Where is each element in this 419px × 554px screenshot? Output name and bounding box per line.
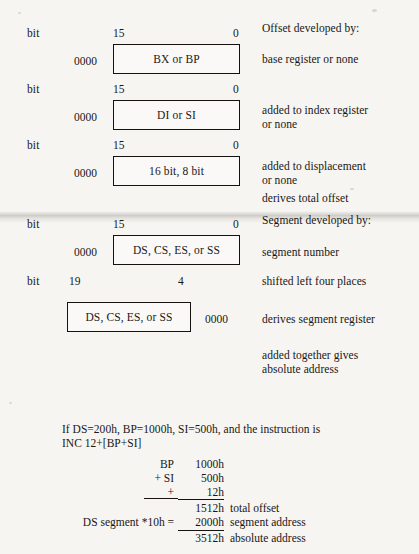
- description-row-5: derives segment register: [262, 313, 375, 327]
- bit-label-row-4: bit: [27, 218, 39, 230]
- address-calculation-diagram: bit 15 0 0000 BX or BP Offset developed …: [0, 0, 419, 554]
- calc-row: BP 1000h: [0, 458, 419, 472]
- bit-label-row-2: bit: [27, 83, 39, 95]
- calc-value: 1000h: [178, 458, 224, 472]
- register-box-label-row-3: 16 bit, 8 bit: [149, 165, 204, 177]
- low-bit-number-row-3: 0: [233, 139, 239, 151]
- bit-label-row-3: bit: [27, 139, 39, 151]
- calc-value: 2000h: [178, 516, 224, 531]
- calc-row: 1512h total offset: [0, 502, 419, 516]
- trailing-zeros-row-5: 0000: [205, 313, 228, 325]
- calc-note: total offset: [224, 502, 279, 516]
- calc-operand: + SI: [0, 472, 178, 486]
- heading-segment-developed-by: Segment developed by:: [262, 214, 371, 228]
- register-box-segment-number: DS, CS, ES, or SS: [113, 235, 240, 265]
- calc-row: + SI 500h: [0, 472, 419, 486]
- note-shifted-left-four-places: shifted left four places: [262, 275, 366, 289]
- calc-row: + 12h: [0, 486, 419, 500]
- register-box-base: BX or BP: [113, 44, 240, 74]
- calc-value: 1512h: [178, 502, 224, 516]
- description-row-3: added to displacement or none: [262, 160, 366, 187]
- register-box-label-row-1: BX or BP: [153, 53, 200, 65]
- leading-zeros-row-3: 0000: [74, 167, 97, 179]
- high-bit-number-row-3: 15: [113, 139, 125, 151]
- register-box-label-row-5: DS, CS, ES, or SS: [85, 311, 172, 323]
- low-bit-number-row-2: 0: [233, 83, 239, 95]
- calc-note: absolute address: [224, 532, 306, 546]
- low-bit-number-row-1: 0: [233, 27, 239, 39]
- calc-operand: DS segment *10h =: [0, 516, 178, 530]
- description-row-4: segment number: [262, 246, 339, 260]
- high-bit-number-row-5: 19: [69, 275, 81, 287]
- high-bit-number-row-2: 15: [113, 83, 125, 95]
- calc-note: segment address: [224, 516, 306, 530]
- description-row-2: added to index register or none: [262, 104, 368, 131]
- register-box-index: DI or SI: [113, 100, 240, 130]
- calc-operand: +: [0, 486, 178, 500]
- example-block: If DS=200h, BP=1000h, SI=500h, and the i…: [62, 423, 412, 450]
- bit-label-row-5: bit: [27, 275, 39, 287]
- register-box-displacement: 16 bit, 8 bit: [113, 156, 240, 186]
- calc-value: 3512h: [178, 532, 224, 546]
- calc-row: DS segment *10h = 2000h segment address: [0, 516, 419, 530]
- calc-value: 12h: [178, 486, 224, 501]
- note-added-together: added together gives absolute address: [262, 349, 358, 376]
- high-bit-number-row-4: 15: [113, 218, 125, 230]
- heading-offset-developed-by: Offset developed by:: [262, 22, 359, 36]
- register-box-shifted-segment: DS, CS, ES, or SS: [67, 302, 191, 332]
- calc-operand: BP: [0, 458, 178, 472]
- register-box-label-row-4: DS, CS, ES, or SS: [133, 244, 220, 256]
- leading-zeros-row-2: 0000: [74, 111, 97, 123]
- high-bit-number-row-1: 15: [113, 27, 125, 39]
- calc-value: 500h: [178, 472, 224, 486]
- example-intro-text: If DS=200h, BP=1000h, SI=500h, and the i…: [62, 423, 412, 450]
- description-row-1: base register or none: [262, 53, 359, 67]
- low-bit-number-row-4: 0: [233, 218, 239, 230]
- low-bit-number-row-5: 4: [178, 275, 184, 287]
- calc-row: 3512h absolute address: [0, 532, 419, 546]
- register-box-label-row-2: DI or SI: [157, 109, 196, 121]
- leading-zeros-row-1: 0000: [74, 55, 97, 67]
- leading-zeros-row-4: 0000: [74, 246, 97, 258]
- note-derives-total-offset: derives total offset: [262, 192, 348, 206]
- bit-label-row-1: bit: [27, 27, 39, 39]
- example-calculation: BP 1000h + SI 500h + 12h 1512h total off…: [0, 458, 419, 546]
